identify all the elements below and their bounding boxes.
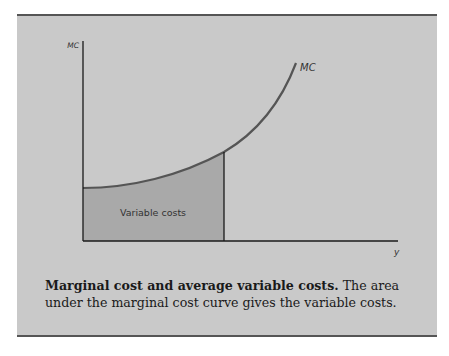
shaded-region-label: Variable costs: [120, 207, 186, 218]
caption-title: Marginal cost and average variable costs…: [45, 278, 339, 293]
x-axis-label: y: [393, 247, 400, 257]
figure-caption: Marginal cost and average variable costs…: [45, 277, 415, 311]
curve-label: MC: [300, 62, 316, 73]
variable-costs-area: [83, 152, 224, 241]
y-axis-label: MC: [67, 41, 79, 50]
